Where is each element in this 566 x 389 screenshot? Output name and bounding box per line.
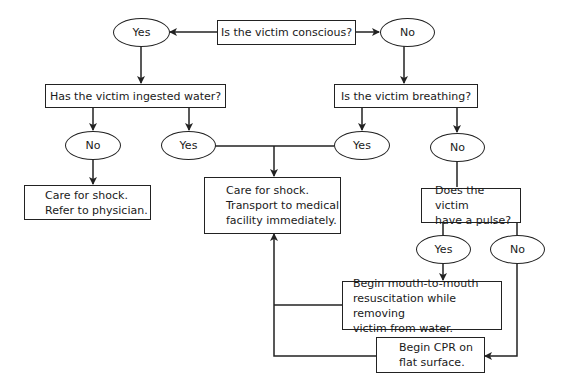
conscious-yes-label: Yes bbox=[133, 25, 151, 40]
action-transport-label: Care for shock. Transport to medical fac… bbox=[226, 183, 339, 228]
action-cpr: Begin CPR on flat surface. bbox=[376, 337, 485, 373]
question-breathing-label: Is the victim breathing? bbox=[341, 89, 471, 104]
action-mouth-label: Begin mouth-to-mouth resuscitation while… bbox=[353, 276, 501, 336]
question-ingested-water: Has the victim ingested water? bbox=[45, 84, 226, 108]
conscious-no-label: No bbox=[400, 25, 415, 40]
breathing-no-label: No bbox=[450, 140, 465, 155]
question-pulse-label: Does the victim have a pulse? bbox=[435, 183, 520, 228]
pulse-no-ellipse: No bbox=[490, 235, 545, 264]
action-mouth-to-mouth: Begin mouth-to-mouth resuscitation while… bbox=[342, 281, 502, 330]
action-transport-medical: Care for shock. Transport to medical fac… bbox=[204, 177, 341, 234]
action-cpr-label: Begin CPR on flat surface. bbox=[399, 340, 473, 370]
breathing-yes-label: Yes bbox=[353, 138, 371, 153]
ingested-no-label: No bbox=[86, 138, 101, 153]
question-breathing: Is the victim breathing? bbox=[334, 84, 478, 108]
breathing-yes-ellipse: Yes bbox=[334, 131, 390, 160]
action-refer-label: Care for shock. Refer to physician. bbox=[45, 188, 148, 218]
question-conscious-label: Is the victim conscious? bbox=[221, 25, 352, 40]
pulse-yes-label: Yes bbox=[435, 242, 453, 257]
action-refer-physician: Care for shock. Refer to physician. bbox=[24, 185, 151, 220]
question-conscious: Is the victim conscious? bbox=[217, 20, 356, 45]
pulse-no-label: No bbox=[510, 242, 525, 257]
conscious-no-ellipse: No bbox=[380, 18, 435, 47]
conscious-yes-ellipse: Yes bbox=[113, 18, 170, 47]
breathing-no-ellipse: No bbox=[430, 133, 485, 162]
ingested-yes-label: Yes bbox=[180, 138, 198, 153]
ingested-yes-ellipse: Yes bbox=[161, 131, 216, 160]
question-ingested-label: Has the victim ingested water? bbox=[50, 89, 221, 104]
question-pulse: Does the victim have a pulse? bbox=[421, 188, 521, 223]
pulse-yes-ellipse: Yes bbox=[416, 235, 471, 264]
ingested-no-ellipse: No bbox=[65, 131, 121, 160]
